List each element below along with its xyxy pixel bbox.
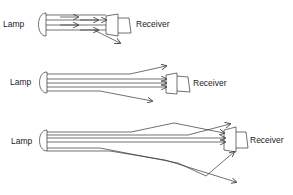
- lamp-icon: [40, 72, 48, 93]
- receiver-label: Receiver: [250, 135, 284, 145]
- lamp-icon: [39, 13, 47, 36]
- diagram-canvas: [0, 0, 293, 195]
- lamp-label: Lamp: [10, 77, 31, 87]
- lamp-label: Lamp: [3, 19, 24, 29]
- receiver-icon: [224, 127, 248, 152]
- diagram-1: [39, 13, 132, 43]
- diagram-3: [40, 123, 249, 182]
- lamp-receiver-diagram: Lamp Receiver Lamp Receiver Lamp Receive…: [0, 0, 293, 195]
- receiver-icon: [166, 73, 190, 94]
- diagram-2: [40, 66, 191, 101]
- receiver-icon: [106, 14, 131, 36]
- receiver-label: Receiver: [193, 78, 227, 88]
- lamp-icon: [40, 130, 48, 151]
- receiver-label: Receiver: [136, 19, 170, 29]
- lamp-label: Lamp: [11, 136, 32, 146]
